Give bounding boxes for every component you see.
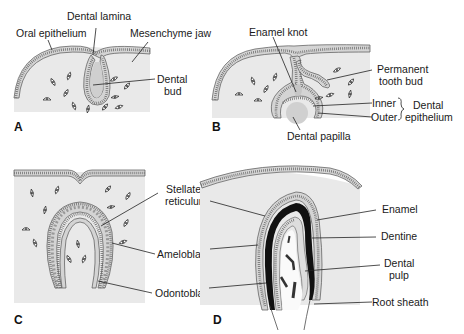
- label-dental-bud-2: bud: [164, 85, 182, 97]
- label-stellate-reticulum-1: Stellate: [166, 183, 201, 195]
- label-dental-pulp-2: pulp: [389, 269, 409, 281]
- label-dental-papilla: Dental papilla: [287, 130, 351, 142]
- panel-a: Oral epithelium Dental lamina Mesenchyme…: [14, 10, 212, 134]
- panel-label-d: D: [213, 313, 222, 327]
- label-inner: Inner: [372, 97, 396, 109]
- label-permanent-tooth-bud-1: Permanent: [377, 63, 428, 75]
- label-root-sheath: Root sheath: [372, 296, 429, 308]
- label-dental-bud-1: Dental: [157, 73, 187, 85]
- label-dentine: Dentine: [381, 230, 417, 242]
- label-outer: Outer: [371, 111, 398, 123]
- panel-d: Enamel Dentine Dental pulp Root sheath D: [200, 166, 429, 330]
- label-permanent-tooth-bud-2: tooth bud: [379, 75, 423, 87]
- panel-label-a: A: [14, 120, 23, 134]
- panel-b: Enamel knot Permanent tooth bud Inner Ou…: [212, 26, 453, 142]
- label-dental-epithelium-2: epithelium: [405, 111, 453, 123]
- label-dental-epithelium-1: Dental: [413, 99, 443, 111]
- panel-label-b: B: [212, 120, 221, 134]
- label-mesenchyme-jaw: Mesenchyme jaw: [130, 27, 212, 39]
- panel-label-c: C: [14, 313, 23, 327]
- label-oral-epithelium: Oral epithelium: [16, 27, 87, 39]
- label-enamel: Enamel: [382, 203, 418, 215]
- panel-c: Stellate reticulum Ameloblasts Odontobla…: [14, 170, 217, 327]
- label-enamel-knot: Enamel knot: [249, 26, 307, 38]
- label-dental-lamina: Dental lamina: [67, 10, 131, 22]
- label-dental-pulp-1: Dental: [384, 257, 414, 269]
- dental-papilla: [286, 102, 308, 124]
- tooth-development-diagram: Oral epithelium Dental lamina Mesenchyme…: [0, 0, 464, 334]
